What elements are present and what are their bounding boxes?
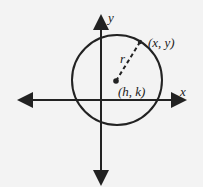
radius-label: r [120,51,126,66]
y-axis-label: y [106,10,114,25]
center-label: (h, k) [118,84,145,99]
circle-point [138,40,142,44]
circle-diagram: y x (x, y) (h, k) r [0,0,203,187]
point-label: (x, y) [148,35,175,50]
center-point [113,78,119,84]
x-axis-label: x [179,84,186,99]
diagram-canvas: y x (x, y) (h, k) r [0,0,203,187]
